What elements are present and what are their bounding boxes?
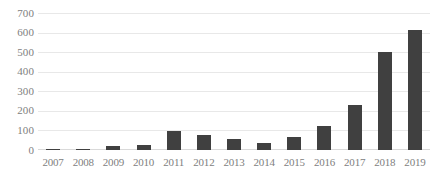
bar-slot — [98, 13, 128, 150]
x-tick-label: 2013 — [219, 152, 249, 176]
bar-2009[interactable] — [106, 146, 120, 150]
bar-2018[interactable] — [378, 52, 392, 150]
y-tick-label: 500 — [0, 47, 34, 58]
bar-2016[interactable] — [317, 126, 331, 150]
bar-2015[interactable] — [287, 137, 301, 150]
bar-2014[interactable] — [257, 143, 271, 150]
bar-slot — [38, 13, 68, 150]
bar-series — [38, 13, 430, 150]
bar-2012[interactable] — [197, 135, 211, 150]
bar-2017[interactable] — [348, 105, 362, 150]
x-tick-label: 2014 — [249, 152, 279, 176]
x-tick-label: 2010 — [128, 152, 158, 176]
bar-2010[interactable] — [137, 145, 151, 150]
y-axis: 7006005004003002001000 — [0, 0, 34, 163]
bar-slot — [128, 13, 158, 150]
bar-2013[interactable] — [227, 139, 241, 150]
x-tick-label: 2011 — [159, 152, 189, 176]
bar-2019[interactable] — [408, 30, 422, 150]
x-axis: 2007200820092010201120122013201420152016… — [38, 152, 430, 176]
x-tick-label: 2007 — [38, 152, 68, 176]
x-tick-label: 2016 — [309, 152, 339, 176]
x-tick-label: 2008 — [68, 152, 98, 176]
bar-slot — [279, 13, 309, 150]
bar-slot — [68, 13, 98, 150]
bar-2007[interactable] — [46, 149, 60, 150]
x-tick-label: 2017 — [340, 152, 370, 176]
x-tick-label: 2012 — [189, 152, 219, 176]
bar-slot — [400, 13, 430, 150]
bar-slot — [249, 13, 279, 150]
bar-slot — [159, 13, 189, 150]
y-tick-label: 100 — [0, 125, 34, 136]
y-tick-label: 400 — [0, 66, 34, 77]
y-tick-label: 200 — [0, 105, 34, 116]
bar-chart: 7006005004003002001000 20072008200920102… — [0, 0, 438, 182]
x-tick-label: 2019 — [400, 152, 430, 176]
x-tick-label: 2015 — [279, 152, 309, 176]
bar-slot — [219, 13, 249, 150]
y-tick-label: 600 — [0, 27, 34, 38]
bar-2011[interactable] — [167, 131, 181, 150]
plot-area — [38, 13, 430, 150]
x-tick-label: 2018 — [370, 152, 400, 176]
y-tick-label: 700 — [0, 8, 34, 19]
y-tick-label: 0 — [0, 145, 34, 156]
x-tick-label: 2009 — [98, 152, 128, 176]
bar-slot — [309, 13, 339, 150]
bar-slot — [370, 13, 400, 150]
bar-slot — [340, 13, 370, 150]
bar-2008[interactable] — [76, 149, 90, 150]
y-tick-label: 300 — [0, 86, 34, 97]
bar-slot — [189, 13, 219, 150]
